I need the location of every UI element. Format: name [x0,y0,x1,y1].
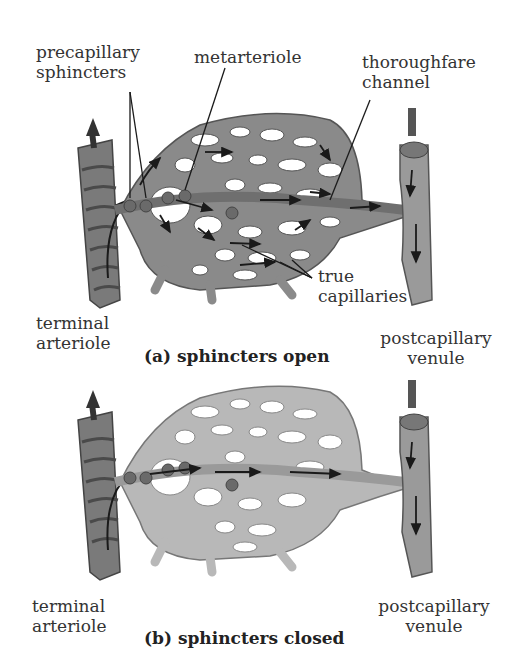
label-line: terminal [32,596,106,616]
label-terminal-arteriole-b: terminal arteriole [32,596,106,636]
label-line: sphincters [36,62,140,82]
label-precapillary-sphincters: precapillary sphincters [36,42,140,82]
label-postcapillary-venule-b: postcapillary venule [372,596,496,636]
label-line: capillaries [318,286,407,306]
label-line: arteriole [36,333,110,353]
label-terminal-arteriole-a: terminal arteriole [36,313,110,353]
label-line: arteriole [32,616,106,636]
caption-panel-b: (b) sphincters closed [144,628,344,648]
postcapillary-venule [400,380,432,577]
label-line: channel [362,72,476,92]
label-line: venule [374,348,498,368]
label-metarteriole: metarteriole [194,47,301,67]
capillary-bed-closed [115,386,420,572]
label-line: thoroughfare [362,52,476,72]
label-line: precapillary [36,42,140,62]
caption-panel-a: (a) sphincters open [144,346,330,366]
label-line: terminal [36,313,110,333]
label-line: postcapillary [372,596,496,616]
panel-b-illustration [0,375,524,595]
label-line: true [318,266,407,286]
label-thoroughfare-channel: thoroughfare channel [362,52,476,92]
label-true-capillaries: true capillaries [318,266,407,306]
label-line: venule [372,616,496,636]
label-line: postcapillary [374,328,498,348]
label-postcapillary-venule-a: postcapillary venule [374,328,498,368]
